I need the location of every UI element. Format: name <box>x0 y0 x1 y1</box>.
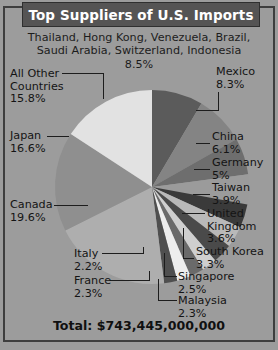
label-china: China 6.1% <box>212 131 244 156</box>
france-percent: 2.3% <box>74 288 111 301</box>
south-korea-name: South Korea <box>196 245 264 258</box>
malaysia-name: Malaysia <box>178 294 227 307</box>
label-singapore: Singapore 2.5% <box>178 271 234 296</box>
italy-percent: 2.2% <box>74 261 102 274</box>
all-other-line2: Countries <box>10 80 64 93</box>
label-germany: Germany 5% <box>212 157 263 182</box>
mexico-percent: 8.3% <box>216 79 255 92</box>
label-malaysia: Malaysia 2.3% <box>178 295 227 320</box>
label-taiwan: Taiwan 3.9% <box>212 182 250 207</box>
label-france: France 2.3% <box>74 275 111 300</box>
all-other-percent: 15.8% <box>10 93 64 106</box>
leader-line-mexico <box>196 110 219 111</box>
label-canada: Canada 19.6% <box>10 199 53 224</box>
france-name: France <box>74 274 111 287</box>
china-percent: 6.1% <box>212 144 244 157</box>
label-all-other-countries: All Other Countries 15.8% <box>10 68 64 106</box>
uk-line2: Kingdom <box>207 220 256 233</box>
leader-line-canada <box>54 205 88 206</box>
leader-line-taiwan <box>193 194 210 195</box>
page-title: Top Suppliers of U.S. Imports <box>28 7 253 23</box>
japan-percent: 16.6% <box>10 143 46 156</box>
all-other-line1: All Other <box>10 67 59 80</box>
leader-line-japan <box>47 136 69 137</box>
total-label: Total: $743,445,000,000 <box>0 318 278 333</box>
leader-line-singapore-vert <box>164 253 165 277</box>
taiwan-percent: 3.9% <box>212 195 250 208</box>
china-name: China <box>212 130 244 143</box>
singapore-name: Singapore <box>178 270 234 283</box>
label-mexico: Mexico 8.3% <box>216 66 255 91</box>
label-south-korea: South Korea 3.3% <box>196 246 264 271</box>
leader-line-all-other <box>62 73 104 74</box>
leader-line-malaysia-vert <box>158 279 159 301</box>
taiwan-name: Taiwan <box>212 181 250 194</box>
chart-figure: Top Suppliers of U.S. Imports Thailand, … <box>0 0 278 350</box>
leader-line-south-korea <box>183 258 194 259</box>
canada-name: Canada <box>10 198 53 211</box>
leader-line-south-korea-vert <box>183 228 184 259</box>
label-japan: Japan 16.6% <box>10 130 46 155</box>
leader-line-france-vert <box>149 271 150 281</box>
other-countries-line1: Thailand, Hong Kong, Venezuela, Brazil, <box>28 31 250 44</box>
label-italy: Italy 2.2% <box>74 248 102 273</box>
leader-line-china <box>196 143 210 144</box>
leader-line-malaysia <box>158 300 177 301</box>
italy-name: Italy <box>74 247 98 260</box>
leader-line-all-other-vert <box>103 73 104 99</box>
leader-line-mexico-vert <box>218 92 219 111</box>
japan-name: Japan <box>10 129 41 142</box>
leader-line-france <box>110 280 150 281</box>
leader-line-italy <box>102 253 144 254</box>
leader-line-singapore <box>164 276 177 277</box>
label-united-kingdom: United Kingdom 3.6% <box>207 208 256 246</box>
leader-line-germany <box>194 169 210 170</box>
uk-line1: United <box>207 207 244 220</box>
leader-line-italy-vert <box>143 247 144 254</box>
mexico-name: Mexico <box>216 65 255 78</box>
leader-line-uk <box>182 213 205 214</box>
germany-name: Germany <box>212 156 263 169</box>
uk-percent: 3.6% <box>207 233 256 246</box>
other-countries-line2: Saudi Arabia, Switzerland, Indonesia <box>37 44 242 57</box>
canada-percent: 19.6% <box>10 212 53 225</box>
chart-title-bar: Top Suppliers of U.S. Imports <box>22 2 260 27</box>
